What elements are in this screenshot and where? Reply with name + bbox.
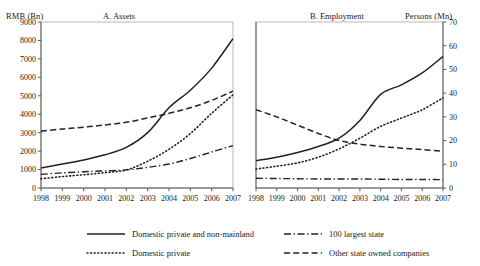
x-tick-label: 2001 bbox=[310, 194, 326, 203]
x-tick-label: 2000 bbox=[290, 194, 306, 203]
y-tick-label: 4000 bbox=[20, 110, 36, 119]
x-tick-label: 1998 bbox=[248, 194, 264, 203]
x-tick-label: 1999 bbox=[54, 194, 70, 203]
series-line bbox=[41, 95, 233, 179]
series-line bbox=[41, 146, 233, 175]
y-tick-label: 60 bbox=[449, 42, 457, 51]
panel-b-title: B. Employment bbox=[310, 11, 364, 21]
panel-assets: 0100020003000400050006000700080009000199… bbox=[20, 18, 241, 203]
x-tick-label: 2002 bbox=[118, 194, 134, 203]
legend-item[interactable]: Domestic private and non-mainland bbox=[86, 228, 254, 240]
panel-employment: 0102030405060701998199920002001200220032… bbox=[248, 18, 457, 203]
legend-label: Other state owned companies bbox=[329, 248, 429, 258]
legend-item[interactable]: Domestic private bbox=[86, 247, 190, 259]
x-tick-label: 1998 bbox=[33, 194, 49, 203]
y-tick-label: 7000 bbox=[20, 55, 36, 64]
y-tick-label: 2000 bbox=[20, 147, 36, 156]
x-tick-label: 2005 bbox=[393, 194, 409, 203]
x-tick-label: 2004 bbox=[161, 194, 177, 203]
chart-legend: Domestic private and non-mainlandDomesti… bbox=[0, 218, 480, 266]
figure-container: 0100020003000400050006000700080009000199… bbox=[0, 0, 480, 266]
panel-b-unit-label: Persons (Mn) bbox=[405, 11, 452, 21]
y-tick-label: 10 bbox=[449, 160, 457, 169]
x-tick-label: 1999 bbox=[269, 194, 285, 203]
x-tick-label: 2006 bbox=[204, 194, 220, 203]
y-tick-label: 40 bbox=[449, 89, 457, 98]
panel-a-unit-label: RMB (Bn) bbox=[6, 11, 43, 21]
y-tick-label: 8000 bbox=[20, 36, 36, 45]
legend-label: 100 largest state bbox=[329, 229, 384, 239]
y-tick-label: 20 bbox=[449, 136, 457, 145]
legend-item[interactable]: 100 largest state bbox=[283, 228, 384, 240]
x-tick-label: 2003 bbox=[352, 194, 368, 203]
series-line bbox=[256, 56, 443, 160]
legend-label: Domestic private and non-mainland bbox=[132, 229, 254, 239]
x-tick-label: 2002 bbox=[331, 194, 347, 203]
legend-item[interactable]: Other state owned companies bbox=[283, 247, 429, 259]
x-tick-label: 2003 bbox=[140, 194, 156, 203]
x-tick-label: 2000 bbox=[76, 194, 92, 203]
x-tick-label: 2001 bbox=[97, 194, 113, 203]
x-tick-label: 2006 bbox=[414, 194, 430, 203]
y-tick-label: 0 bbox=[449, 184, 453, 193]
x-tick-label: 2007 bbox=[225, 194, 241, 203]
legend-label: Domestic private bbox=[132, 248, 190, 258]
plot-frame bbox=[256, 22, 443, 188]
legend-line-dashed-icon bbox=[283, 247, 323, 259]
x-tick-label: 2004 bbox=[373, 194, 389, 203]
y-tick-label: 50 bbox=[449, 65, 457, 74]
panel-a-title: A. Assets bbox=[103, 11, 135, 21]
series-line bbox=[256, 178, 443, 179]
series-line bbox=[256, 98, 443, 169]
legend-line-dotted-icon bbox=[86, 247, 126, 259]
y-tick-label: 0 bbox=[32, 184, 36, 193]
legend-line-solid-icon bbox=[86, 228, 126, 240]
y-tick-label: 30 bbox=[449, 113, 457, 122]
x-tick-label: 2005 bbox=[182, 194, 198, 203]
y-tick-label: 1000 bbox=[20, 165, 36, 174]
x-tick-label: 2007 bbox=[435, 194, 451, 203]
legend-line-dashdot-icon bbox=[283, 228, 323, 240]
series-line bbox=[41, 91, 233, 131]
y-tick-label: 3000 bbox=[20, 129, 36, 138]
y-tick-label: 6000 bbox=[20, 73, 36, 82]
y-tick-label: 5000 bbox=[20, 92, 36, 101]
